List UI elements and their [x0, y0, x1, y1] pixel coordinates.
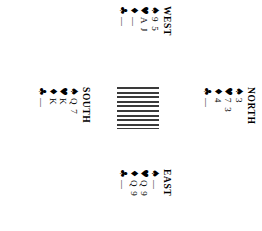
hand-east-diamonds-cards: Q 9 — [129, 180, 140, 197]
hand-east-suit-spades: ♠ — — [150, 169, 161, 197]
hand-west-suit-clubs: ♣ — — [118, 6, 129, 36]
hand-south-suit-hearts: ♥ K — [58, 87, 69, 123]
club-icon: ♣ — [118, 6, 129, 17]
hand-north-clubs-cards: — — [202, 98, 213, 108]
hand-east-suit-hearts: ♥ Q 9 — [139, 169, 150, 197]
diamond-icon: ♦ — [48, 87, 59, 98]
hand-west: WEST ♠ 9 5 ♥ A J ♦ — ♣ — — [118, 6, 172, 36]
hand-east-suit-diamonds: ♦ Q 9 — [129, 169, 140, 197]
spade-icon: ♠ — [69, 87, 80, 98]
hand-south-label: SOUTH — [80, 87, 91, 123]
hand-east-hearts-cards: Q 9 — [139, 180, 150, 197]
hand-south-suit-spades: ♠ Q 7 — [69, 87, 80, 123]
hand-north-suit-clubs: ♣ — — [202, 87, 213, 125]
hand-south-spades-cards: Q 7 — [69, 98, 80, 115]
hand-north-suit-spades: ♠ 3 — [234, 87, 245, 125]
hand-east-label: EAST — [161, 169, 172, 197]
hand-east-clubs-cards: — — [118, 180, 129, 190]
hand-north-label: NORTH — [245, 87, 256, 125]
hand-west-diamonds-cards: — — [129, 17, 140, 27]
hand-east: EAST ♠ — ♥ Q 9 ♦ Q 9 ♣ — — [118, 169, 172, 197]
hatched-center-box — [117, 87, 159, 129]
hand-north-spades-cards: 3 — [234, 98, 245, 104]
hand-west-hearts-cards: A J — [139, 17, 150, 32]
club-icon: ♣ — [37, 87, 48, 98]
heart-icon: ♥ — [223, 87, 234, 98]
hand-north-suit-hearts: ♥ 7 3 — [223, 87, 234, 125]
spade-icon: ♠ — [234, 87, 245, 98]
diamond-icon: ♦ — [129, 169, 140, 180]
hand-south-suit-diamonds: ♦ K — [48, 87, 59, 123]
hand-west-suit-hearts: ♥ A J — [139, 6, 150, 36]
diamond-icon: ♦ — [213, 87, 224, 98]
hand-west-suit-spades: ♠ 9 5 — [150, 6, 161, 36]
heart-icon: ♥ — [58, 87, 69, 98]
heart-icon: ♥ — [139, 169, 150, 180]
hand-south: SOUTH ♠ Q 7 ♥ K ♦ K ♣ — — [37, 87, 91, 123]
hand-north: NORTH ♠ 3 ♥ 7 3 ♦ 4 ♣ — — [202, 87, 256, 125]
hand-north-diamonds-cards: 4 — [213, 98, 224, 104]
hand-north-suit-diamonds: ♦ 4 — [213, 87, 224, 125]
heart-icon: ♥ — [139, 6, 150, 17]
hand-west-clubs-cards: — — [118, 17, 129, 27]
hand-south-diamonds-cards: K — [48, 98, 59, 106]
hand-south-hearts-cards: K — [58, 98, 69, 106]
bridge-hand-diagram: WEST ♠ 9 5 ♥ A J ♦ — ♣ — NORTH ♠ 3 ♥ 7 3… — [0, 0, 262, 231]
spade-icon: ♠ — [150, 169, 161, 180]
club-icon: ♣ — [202, 87, 213, 98]
club-icon: ♣ — [118, 169, 129, 180]
hand-west-spades-cards: 9 5 — [150, 17, 161, 32]
diamond-icon: ♦ — [129, 6, 140, 17]
hand-south-clubs-cards: — — [37, 98, 48, 108]
spade-icon: ♠ — [150, 6, 161, 17]
hand-east-suit-clubs: ♣ — — [118, 169, 129, 197]
hand-east-spades-cards: — — [150, 180, 161, 190]
hand-west-suit-diamonds: ♦ — — [129, 6, 140, 36]
hand-north-hearts-cards: 7 3 — [223, 98, 234, 113]
hand-west-label: WEST — [161, 6, 172, 36]
hand-south-suit-clubs: ♣ — — [37, 87, 48, 123]
